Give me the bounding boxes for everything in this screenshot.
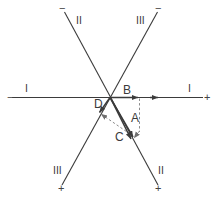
sign-axis-II-positive: + [155, 183, 161, 194]
sign-axis-I-positive: + [204, 92, 210, 103]
sign-axis-II-negative: − [59, 3, 65, 14]
sign-axis-III-positive: + [58, 183, 64, 194]
vector-label-C: C [115, 131, 124, 143]
axis-label-III-bottom: III [53, 165, 62, 176]
sign-axis-III-negative: − [155, 3, 161, 14]
vector-label-B: B [123, 84, 131, 96]
axis-label-I-right: I [188, 83, 191, 94]
dashed-construction-to-tip [134, 131, 140, 138]
sign-axis-I-negative: − [7, 92, 13, 103]
point-label-D: D [94, 98, 103, 110]
diagram-canvas [0, 0, 216, 198]
vector-diagram-figure: − + − + − + II III III II I I D B A C [0, 0, 216, 198]
axis-label-II-top: II [76, 15, 82, 26]
axis-label-III-top: III [136, 15, 145, 26]
axis-label-I-left: I [25, 83, 28, 94]
vector-label-A: A [131, 112, 139, 124]
axis-label-II-bottom: II [158, 165, 164, 176]
